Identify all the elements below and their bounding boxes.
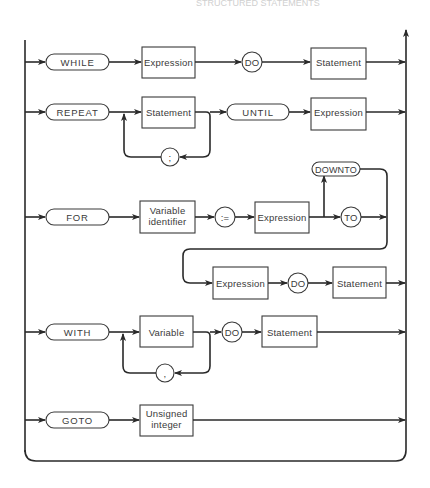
for-initial-expression-label: Expression [258,212,307,223]
with-comma-label: , [164,368,167,379]
until-expression-label: Expression [314,107,363,118]
goto-keyword: GOTO [62,415,93,426]
goto-row: GOTO Unsigned integer [25,405,405,436]
with-row: WITH Variable , DO Statement [25,316,405,382]
goto-label-line1: Unsigned [146,408,188,419]
outer-frame [25,30,406,461]
while-statement-label: Statement [316,57,361,68]
while-row: WHILE Expression DO Statement [25,47,405,79]
page-header: STRUCTURED STATEMENTS [196,0,320,8]
for-keyword: FOR [66,212,88,223]
for-statement-label: Statement [337,278,382,289]
repeat-keyword: REPEAT [56,107,98,118]
repeat-semicolon-label: ; [169,152,172,163]
syntax-diagram: STRUCTURED STATEMENTS WHILE Expression D… [0,0,430,488]
for-variable-line1: Variable [150,205,186,216]
for-assign-label: := [221,212,230,223]
repeat-row: REPEAT Statement ; UNTIL Expression [25,97,405,166]
while-expression-label: Expression [144,57,193,68]
goto-label-line2: integer [151,419,181,430]
with-keyword: WITH [64,327,91,338]
while-do-label: DO [245,57,260,68]
until-keyword: UNTIL [242,107,273,118]
for-row: FOR Variable identifier := Expression DO… [25,162,405,299]
while-keyword: WHILE [60,57,94,68]
with-do-label: DO [225,327,240,338]
for-do-label: DO [291,278,306,289]
repeat-statement-label: Statement [146,107,191,118]
for-variable-line2: identifier [149,216,187,227]
with-variable-label: Variable [149,327,185,338]
to-keyword: TO [344,212,357,223]
for-final-expression-label: Expression [216,278,265,289]
downto-keyword: DOWNTO [315,165,357,175]
with-statement-label: Statement [267,327,312,338]
